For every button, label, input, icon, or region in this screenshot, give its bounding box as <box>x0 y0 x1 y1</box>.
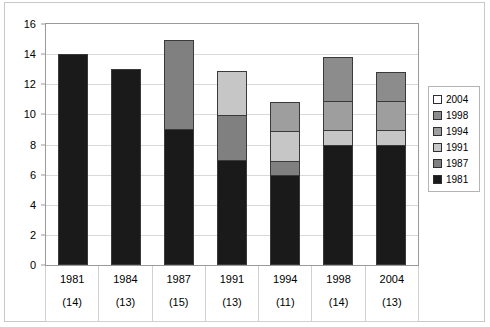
bar-segment[interactable] <box>323 57 353 102</box>
stacked-bar[interactable] <box>376 72 406 265</box>
legend-swatch-icon <box>433 95 442 104</box>
x-axis-category-label: 1994 <box>273 273 297 285</box>
bar-column[interactable] <box>205 24 258 265</box>
legend-swatch-icon <box>433 143 442 152</box>
legend-swatch-icon <box>433 159 442 168</box>
legend-item[interactable]: 2004 <box>433 91 476 107</box>
bar-column[interactable] <box>259 24 312 265</box>
legend-swatch-icon <box>433 111 442 120</box>
bar-segment[interactable] <box>376 130 406 145</box>
legend-label: 2004 <box>446 94 468 105</box>
legend-swatch-icon <box>433 127 442 136</box>
x-axis-category-table: 1981(14)1984(13)1987(15)1991(13)1994(11)… <box>45 266 419 322</box>
legend-label: 1981 <box>446 174 468 185</box>
bar-segment[interactable] <box>58 54 88 265</box>
stacked-bar[interactable] <box>164 40 194 265</box>
legend-item[interactable]: 1994 <box>433 123 476 139</box>
legend-swatch-icon <box>433 175 442 184</box>
bar-segment[interactable] <box>164 40 194 130</box>
x-axis-category-cell: 2004(13) <box>366 266 419 321</box>
stacked-bar[interactable] <box>58 54 88 265</box>
legend-label: 1998 <box>446 110 468 121</box>
bar-column[interactable] <box>99 24 152 265</box>
bar-segment[interactable] <box>376 145 406 266</box>
y-axis-tick-label: 12 <box>24 78 36 90</box>
legend-item[interactable]: 1987 <box>433 155 476 171</box>
y-axis: 0246810121416 <box>5 23 41 266</box>
x-axis-category-total: (13) <box>222 296 242 308</box>
bar-segment[interactable] <box>270 102 300 132</box>
bar-column[interactable] <box>46 24 99 265</box>
bar-segment[interactable] <box>376 72 406 102</box>
x-axis-category-cell: 1984(13) <box>99 266 152 321</box>
legend-label: 1991 <box>446 142 468 153</box>
bar-segment[interactable] <box>323 145 353 266</box>
stacked-bar[interactable] <box>270 102 300 265</box>
x-axis-category-total: (14) <box>329 296 349 308</box>
x-axis-category-cell: 1991(13) <box>206 266 259 321</box>
bar-series-container <box>46 24 418 265</box>
legend-label: 1987 <box>446 158 468 169</box>
x-axis-category-cell: 1981(14) <box>46 266 99 321</box>
bar-segment[interactable] <box>323 130 353 145</box>
bar-segment[interactable] <box>217 115 247 160</box>
chart-legend: 200419981994199119871981 <box>428 86 480 192</box>
x-axis-category-label: 1987 <box>166 273 190 285</box>
bar-segment[interactable] <box>323 101 353 131</box>
chart-frame: 0246810121416 1981(14)1984(13)1987(15)19… <box>4 2 485 322</box>
plot-area <box>45 23 419 266</box>
legend-item[interactable]: 1998 <box>433 107 476 123</box>
x-axis-category-label: 1991 <box>220 273 244 285</box>
x-axis-category-cell: 1994(11) <box>259 266 312 321</box>
y-axis-tick-label: 10 <box>24 108 36 120</box>
legend-item[interactable]: 1991 <box>433 139 476 155</box>
bar-column[interactable] <box>152 24 205 265</box>
y-axis-tick-label: 6 <box>30 169 36 181</box>
bar-column[interactable] <box>365 24 418 265</box>
x-axis-category-cell: 1987(15) <box>153 266 206 321</box>
bar-segment[interactable] <box>217 71 247 116</box>
bar-segment[interactable] <box>164 129 194 265</box>
y-axis-tick-label: 16 <box>24 18 36 30</box>
bar-segment[interactable] <box>111 69 141 265</box>
legend-label: 1994 <box>446 126 468 137</box>
bar-segment[interactable] <box>270 131 300 161</box>
stacked-bar[interactable] <box>217 71 247 265</box>
bar-segment[interactable] <box>376 101 406 131</box>
legend-item[interactable]: 1981 <box>433 171 476 187</box>
x-axis-category-total: (11) <box>276 296 295 308</box>
bar-column[interactable] <box>312 24 365 265</box>
bar-segment[interactable] <box>270 175 300 265</box>
x-axis-category-total: (13) <box>116 296 136 308</box>
x-axis-category-total: (15) <box>169 296 189 308</box>
y-axis-tick-label: 4 <box>30 199 36 211</box>
stacked-bar[interactable] <box>323 57 353 265</box>
y-axis-tick-label: 14 <box>24 48 36 60</box>
x-axis-category-total: (13) <box>382 296 402 308</box>
x-axis-category-label: 2004 <box>380 273 404 285</box>
bar-segment[interactable] <box>217 160 247 265</box>
bar-segment[interactable] <box>270 161 300 176</box>
y-axis-tick-label: 0 <box>30 259 36 271</box>
y-axis-tick-label: 2 <box>30 229 36 241</box>
x-axis-category-total: (14) <box>62 296 82 308</box>
x-axis-category-label: 1984 <box>113 273 137 285</box>
stacked-bar[interactable] <box>111 69 141 265</box>
x-axis-category-label: 1981 <box>60 273 84 285</box>
x-axis-category-cell: 1998(14) <box>312 266 365 321</box>
y-axis-tick-label: 8 <box>30 139 36 151</box>
x-axis-category-label: 1998 <box>326 273 350 285</box>
chart-title-cropped <box>5 3 486 9</box>
